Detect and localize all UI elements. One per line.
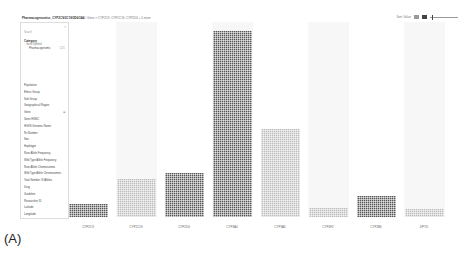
sidebar-item-rs-number[interactable]: Rs Number bbox=[24, 131, 66, 138]
sidebar-item-star[interactable]: Star bbox=[24, 137, 66, 144]
x-axis-label: CYP3A5 bbox=[260, 225, 300, 229]
chart-bar[interactable] bbox=[213, 31, 252, 217]
category-item[interactable]: Pharmacogenomic bbox=[29, 47, 51, 50]
chart-bar[interactable] bbox=[165, 173, 204, 217]
attribute-list: Population Ethnic Group Sub Group Geogra… bbox=[24, 83, 66, 219]
chart-bar[interactable] bbox=[117, 179, 156, 217]
sidebar-item-population[interactable]: Population bbox=[24, 83, 66, 90]
chart-bar[interactable] bbox=[309, 208, 348, 217]
chart-column[interactable] bbox=[116, 22, 157, 217]
x-axis-label: CYP2D6 bbox=[164, 225, 204, 229]
x-axis-label: CYP2B6 bbox=[356, 225, 396, 229]
toolbar-right: Sort: Value bbox=[396, 15, 458, 19]
chart-bar[interactable] bbox=[69, 204, 108, 217]
chart-column[interactable] bbox=[164, 22, 205, 217]
chart-column[interactable] bbox=[212, 22, 253, 217]
breadcrumb: Pharmacogenomics_CYP2C9/2C19/2D6/3A4 / G… bbox=[22, 16, 151, 20]
sidebar-item-hgvs[interactable]: HGVS Genomic Name bbox=[24, 124, 66, 131]
sidebar-item-geographical-region[interactable]: Geographical Region bbox=[24, 103, 66, 110]
sidebar-item-haplotype[interactable]: Haplotype bbox=[24, 144, 66, 151]
sort-label[interactable]: Sort: Value bbox=[396, 15, 411, 19]
chart-column[interactable] bbox=[356, 22, 397, 217]
expand-icon[interactable]: ⊕ bbox=[63, 110, 66, 117]
sidebar-item-latitude[interactable]: Latitude bbox=[24, 205, 66, 212]
chart-column[interactable] bbox=[260, 22, 301, 217]
search-input[interactable]: Search bbox=[24, 31, 32, 34]
x-axis-label: CYP4F2 bbox=[308, 225, 348, 229]
sidebar-item-sub-group[interactable]: Sub Group bbox=[24, 97, 66, 104]
chart-column[interactable] bbox=[68, 22, 109, 217]
grid-view-icon[interactable] bbox=[414, 15, 419, 19]
chart-bar[interactable] bbox=[405, 209, 444, 217]
toolbar: Pharmacogenomics_CYP2C9/2C19/2D6/3A4 / G… bbox=[22, 14, 462, 22]
sidebar-item-drug[interactable]: Drug bbox=[24, 185, 66, 192]
sidebar-item-rare-allele-chromosomes[interactable]: Rare Allele Chromosomes bbox=[24, 165, 66, 172]
category-sub[interactable]: Gene Symbol bbox=[26, 43, 42, 46]
chart-bar[interactable] bbox=[357, 196, 396, 217]
x-axis-label: CYP2C19 bbox=[116, 225, 156, 229]
panel-label: (A) bbox=[4, 231, 21, 246]
sidebar-item-wild-type-allele-chromosomes[interactable]: Wild Type Allele Chromosomes bbox=[24, 171, 66, 178]
sidebar-item-longitude[interactable]: Longitude bbox=[24, 212, 66, 219]
sidebar-item-wild-type-allele-frequency[interactable]: Wild Type Allele Frequency bbox=[24, 158, 66, 165]
x-axis-label: DPYD bbox=[404, 225, 444, 229]
sidebar-item-ethnic-group[interactable]: Ethnic Group bbox=[24, 90, 66, 97]
chart-bar[interactable] bbox=[261, 129, 300, 217]
chart-column[interactable] bbox=[404, 22, 445, 217]
sidebar-item-total-alleles[interactable]: Total Number Of Alleles bbox=[24, 178, 66, 185]
x-axis-label: CYP2C9 bbox=[68, 225, 108, 229]
waffle-bar-chart: CYP2C9CYP2C19CYP2D6CYP3A4CYP3A5CYP4F2CYP… bbox=[68, 22, 462, 222]
sidebar-item-gene[interactable]: Gene⊕ bbox=[24, 110, 66, 117]
sidebar: × Search Category Gene Symbol Pharmacoge… bbox=[20, 22, 69, 219]
sidebar-item-gene-hgnc[interactable]: Gene HGNC bbox=[24, 117, 66, 124]
chart-column[interactable] bbox=[308, 22, 349, 217]
x-axis-label: CYP3A4 bbox=[212, 225, 252, 229]
bar-view-icon[interactable] bbox=[422, 15, 427, 19]
sidebar-item-researcher-id[interactable]: Researcher ID bbox=[24, 199, 66, 206]
breadcrumb-root[interactable]: Pharmacogenomics_CYP2C9/2C19/2D6/3A4 bbox=[22, 16, 85, 20]
zoom-slider[interactable] bbox=[430, 17, 458, 18]
sidebar-item-guideline[interactable]: Guideline bbox=[24, 192, 66, 199]
category-item-count: 1231 bbox=[59, 47, 65, 50]
breadcrumb-path[interactable]: Gene > CYP2C9, CYP2C19, CYP2D6 + 5 more bbox=[87, 16, 151, 20]
zoom-slider-knob[interactable] bbox=[432, 15, 433, 20]
close-icon[interactable]: × bbox=[64, 25, 66, 29]
sidebar-item-rare-allele-frequency[interactable]: Rare Allele Frequency bbox=[24, 151, 66, 158]
